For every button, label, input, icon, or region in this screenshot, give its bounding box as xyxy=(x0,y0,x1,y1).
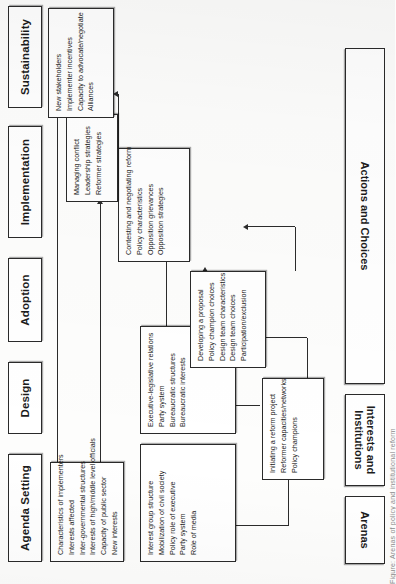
column-header-agenda-setting: Agenda Setting xyxy=(8,454,42,562)
box-adoption-actions: Contesting and negotiating reform Policy… xyxy=(118,148,190,262)
column-header-implementation: Implementation xyxy=(8,126,42,238)
box-item-list: Characteristics of implementers Interest… xyxy=(56,469,121,555)
box-item: Opposition strategies xyxy=(156,155,167,255)
box-item: Developing a proposal xyxy=(196,278,207,361)
connector-line xyxy=(236,525,288,526)
box-item: Initiating a reform project xyxy=(268,385,279,473)
box-agenda-actions: Initiating a reform project Reformer cap… xyxy=(262,378,324,480)
box-item: Reformer capacities/networks xyxy=(279,385,290,473)
connector-line xyxy=(118,94,119,152)
connector-line xyxy=(307,338,308,378)
box-item: Interest group structure xyxy=(146,451,157,555)
box-item: Participation/exclusion xyxy=(239,278,250,361)
column-header-sustainability: Sustainability xyxy=(8,6,42,108)
connector-line xyxy=(57,106,58,462)
connector-line xyxy=(248,226,295,227)
box-item-list: Executive-legislative relations Party sy… xyxy=(146,333,189,427)
box-item: Bureaucratic structures xyxy=(168,333,179,427)
box-item: Reformer strategies xyxy=(94,121,105,195)
box-item: Design team choices xyxy=(228,278,239,361)
row-label-text: Arenas xyxy=(359,511,371,548)
box-item-list: Interest group structure Mobilization of… xyxy=(146,451,200,555)
box-item: New interests xyxy=(110,469,121,555)
column-header-design: Design xyxy=(8,362,42,434)
connector-line xyxy=(266,337,307,338)
column-header-label: Agenda Setting xyxy=(19,465,31,551)
row-label-arenas: Arenas xyxy=(345,496,385,564)
box-item: Contesting and negotiating reform xyxy=(124,155,135,255)
box-item-list: New stakeholders Implementer incentives … xyxy=(54,15,97,111)
connector-line xyxy=(100,204,101,462)
connector-line xyxy=(295,227,296,271)
box-item: Executive-legislative relations xyxy=(146,333,157,427)
box-item: Capacity of public sector xyxy=(99,469,110,555)
row-label-text: Actions and Choices xyxy=(359,162,371,271)
box-item: Characteristics of implementers xyxy=(56,469,67,555)
box-item: Inter-governmental structures xyxy=(78,469,89,555)
box-item: Party system xyxy=(157,333,168,427)
box-agenda-institutions: Interest group structure Mobilization of… xyxy=(140,444,236,562)
box-item-list: Contesting and negotiating reform Policy… xyxy=(124,155,167,255)
box-item: Alliances xyxy=(86,15,97,111)
row-label-actions-and-choices: Actions and Choices xyxy=(345,48,385,384)
box-item-list: Initiating a reform project Reformer cap… xyxy=(268,385,300,473)
figure-caption: Figure: Arenas of policy and institution… xyxy=(389,0,396,584)
box-item: Opposition grievances xyxy=(146,155,157,255)
box-item: Party system xyxy=(178,451,189,555)
row-label-interests-and-institutions: Interests and Institutions xyxy=(345,394,385,486)
box-implementation-actions: Managing conflict Leadership strategies … xyxy=(66,114,118,202)
row-label-text: Interests and Institutions xyxy=(353,406,378,474)
box-item: Policy champions xyxy=(290,385,301,473)
box-item: Interests of high/middle level officials xyxy=(88,469,99,555)
column-header-label: Adoption xyxy=(19,274,31,325)
box-item: Interests affected xyxy=(67,469,78,555)
box-item: Managing conflict xyxy=(72,121,83,195)
column-header-label: Design xyxy=(19,379,31,418)
box-implementation-institutions: Characteristics of implementers Interest… xyxy=(50,462,124,562)
box-item: Implementer incentives xyxy=(65,15,76,111)
box-item: Capacity to advocate/negotiate xyxy=(76,15,87,111)
box-item: Design team characteristics xyxy=(218,278,229,361)
column-header-label: Sustainability xyxy=(19,19,31,95)
box-item: Role of media xyxy=(189,451,200,555)
box-item-list: Managing conflict Leadership strategies … xyxy=(72,121,104,195)
box-item-list: Developing a proposal Policy champion ch… xyxy=(196,278,250,361)
connector-arrowhead xyxy=(243,224,248,230)
box-item: Policy characteristics xyxy=(135,155,146,255)
column-header-label: Implementation xyxy=(19,139,31,225)
box-item: New stakeholders xyxy=(54,15,65,111)
box-sustainability-actions: New stakeholders Implementer incentives … xyxy=(48,8,114,118)
box-item: Policy role of executive xyxy=(168,451,179,555)
column-header-adoption: Adoption xyxy=(8,258,42,342)
box-item: Mobilization of civil society xyxy=(157,451,168,555)
box-item: Leadership strategies xyxy=(83,121,94,195)
box-design-actions: Developing a proposal Policy champion ch… xyxy=(190,271,266,368)
box-item: Bureaucratic interests xyxy=(178,333,189,427)
box-item: Policy champion choices xyxy=(207,278,218,361)
